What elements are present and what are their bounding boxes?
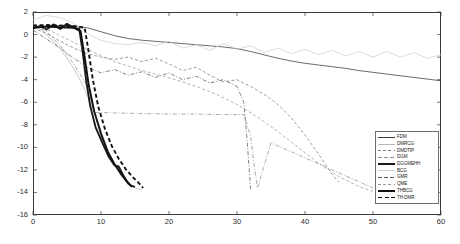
- legend-item-label: DMDTIP: [397, 148, 414, 154]
- legend-line-sample-icon: [378, 154, 395, 160]
- legend-item-label: DGGMEHH: [397, 161, 420, 167]
- chart-container: 20-2-4-6-8-10-12-14-16 0102030405060 FDM…: [0, 0, 460, 244]
- x-tick-label: 50: [363, 218, 383, 226]
- legend-item-label: TH-DMR: [397, 195, 415, 201]
- y-tick-label: -6: [2, 98, 28, 106]
- y-tick-label: -2: [2, 53, 28, 61]
- x-tick-label: 10: [91, 218, 111, 226]
- legend-line-sample-icon: [378, 161, 395, 167]
- y-tick-label: -10: [2, 143, 28, 151]
- legend-line-sample-icon: [378, 148, 395, 154]
- chart-svg-layer: [0, 0, 460, 244]
- series-line-fdm: [33, 26, 441, 81]
- legend-item-thbcg[interactable]: THBCG: [378, 188, 436, 195]
- legend-item-label: BCG: [397, 168, 407, 174]
- y-tick-label: 0: [2, 31, 28, 39]
- legend-line-sample-icon: [378, 188, 395, 194]
- legend-item-dmrcg[interactable]: DMRCG: [378, 141, 436, 148]
- legend-item-label: GMR: [397, 174, 407, 180]
- legend-item-fdm[interactable]: FDM: [378, 134, 436, 141]
- legend-item-dggmehh[interactable]: DGGMEHH: [378, 161, 436, 168]
- series-line-gmr: [33, 30, 251, 189]
- legend-item-gmr[interactable]: GMR: [378, 174, 436, 181]
- series-line-bcg: [33, 15, 441, 58]
- x-tick-label: 0: [23, 218, 43, 226]
- legend-line-sample-icon: [378, 181, 395, 187]
- x-tick-label: 20: [159, 218, 179, 226]
- x-tick-label: 40: [295, 218, 315, 226]
- legend-item-qme[interactable]: QME: [378, 181, 436, 188]
- chart-legend[interactable]: FDMDMRCGDMDTIPDGMDGGMEHHBCGGMRQMETHBCGTH…: [375, 131, 439, 204]
- legend-item-label: DGM: [397, 154, 407, 160]
- legend-line-sample-icon: [378, 141, 395, 147]
- legend-item-dgm[interactable]: DGM: [378, 154, 436, 161]
- y-tick-label: -12: [2, 166, 28, 174]
- legend-item-label: FDM: [397, 134, 407, 140]
- legend-item-bcg[interactable]: BCG: [378, 167, 436, 174]
- series-line-dmdtip: [33, 28, 339, 183]
- y-tick-label: -14: [2, 188, 28, 196]
- legend-item-label: DMRCG: [397, 141, 414, 147]
- legend-line-sample-icon: [378, 195, 395, 201]
- x-tick-label: 60: [431, 218, 451, 226]
- legend-item-dmdtip[interactable]: DMDTIP: [378, 147, 436, 154]
- y-tick-label: -4: [2, 76, 28, 84]
- legend-line-sample-icon: [378, 174, 395, 180]
- legend-item-label: THBCG: [397, 188, 413, 194]
- series-line-th-dmr: [33, 25, 143, 188]
- legend-line-sample-icon: [378, 134, 395, 140]
- legend-item-label: QME: [397, 181, 407, 187]
- y-tick-label: 2: [2, 8, 28, 16]
- x-tick-label: 30: [227, 218, 247, 226]
- y-tick-label: -8: [2, 121, 28, 129]
- legend-line-sample-icon: [378, 168, 395, 174]
- legend-item-th-dmr[interactable]: TH-DMR: [378, 194, 436, 201]
